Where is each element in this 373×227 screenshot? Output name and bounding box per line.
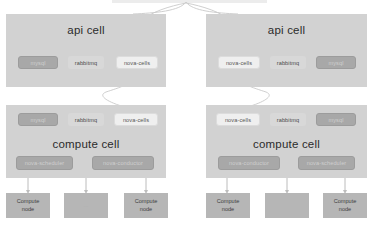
chip-nova-scheduler[interactable]: nova-scheduler: [298, 156, 355, 170]
chip-mysql[interactable]: mysql: [316, 113, 356, 126]
chip-mysql[interactable]: mysql: [18, 113, 58, 126]
chip-nova-cells[interactable]: nova-cells: [216, 113, 260, 126]
compute-cell-right-title: compute cell: [206, 138, 367, 150]
top-parent-box: [112, 0, 267, 3]
compute-cell-right[interactable]: compute cell nova-cells rabbitmq mysql n…: [206, 105, 367, 178]
compute-node-line1: Compute: [217, 198, 240, 205]
compute-node-line2: node: [140, 206, 152, 213]
compute-node[interactable]: [265, 193, 309, 218]
compute-node-line2: node: [339, 206, 351, 213]
compute-cell-left[interactable]: compute cell mysql rabbitmq nova-cells n…: [6, 105, 166, 178]
chip-rabbitmq[interactable]: rabbitmq: [270, 113, 306, 126]
compute-cell-left-title: compute cell: [6, 138, 166, 150]
compute-node[interactable]: Compute node: [206, 193, 250, 218]
chip-rabbitmq[interactable]: rabbitmq: [68, 56, 104, 69]
compute-node[interactable]: Compute node: [6, 193, 50, 218]
compute-node[interactable]: Compute node: [323, 193, 367, 218]
compute-node-line1: Compute: [17, 198, 40, 205]
chip-rabbitmq[interactable]: rabbitmq: [270, 56, 306, 69]
chip-mysql[interactable]: mysql: [18, 56, 58, 69]
chip-nova-cells[interactable]: nova-cells: [116, 56, 158, 69]
api-cell-left[interactable]: api cell mysql rabbitmq nova-cells: [6, 14, 166, 87]
chip-nova-cells[interactable]: nova-cells: [114, 113, 158, 126]
chip-nova-conductor[interactable]: nova-conductor: [92, 156, 154, 170]
chip-nova-conductor[interactable]: nova-conductor: [218, 156, 280, 170]
wire-top-left: [133, 2, 186, 14]
compute-node[interactable]: ...: [64, 193, 108, 218]
compute-node-line2: node: [222, 206, 234, 213]
chip-rabbitmq[interactable]: rabbitmq: [68, 113, 104, 126]
chip-nova-cells[interactable]: nova-cells: [218, 56, 260, 69]
api-cell-left-title: api cell: [6, 24, 166, 36]
api-cell-right-title: api cell: [206, 24, 367, 36]
compute-node-line1: Compute: [334, 198, 357, 205]
api-cell-right[interactable]: api cell nova-cells rabbitmq mysql: [206, 14, 367, 87]
compute-node-line1: Compute: [135, 198, 158, 205]
chip-mysql[interactable]: mysql: [316, 56, 356, 69]
chip-nova-scheduler[interactable]: nova-scheduler: [16, 156, 73, 170]
compute-node-line2: node: [22, 206, 34, 213]
compute-node-line1: ...: [83, 202, 88, 209]
wire-top-right: [186, 2, 238, 14]
compute-node[interactable]: Compute node: [124, 193, 168, 218]
diagram-canvas: api cell mysql rabbitmq nova-cells api c…: [0, 0, 373, 227]
